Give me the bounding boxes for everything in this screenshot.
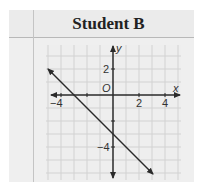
origin-label: O [102, 82, 111, 94]
x-tick-label-4: 4 [162, 97, 168, 109]
x-axis-label: x [172, 82, 179, 94]
x-tick-label-2: 2 [136, 97, 142, 109]
x-tick-label-neg4: −4 [50, 97, 63, 109]
y-tick-label-2: 2 [103, 63, 109, 75]
y-tick-label-neg4: −4 [97, 141, 110, 153]
coordinate-graph: y x O −4 2 4 2 −4 [0, 0, 203, 188]
